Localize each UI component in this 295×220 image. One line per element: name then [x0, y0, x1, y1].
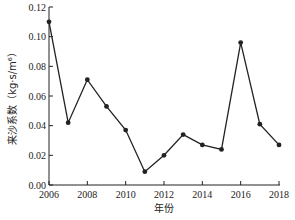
y-tick-label: 0.10	[29, 31, 47, 42]
data-point	[47, 19, 52, 24]
data-point	[257, 122, 262, 127]
data-point	[85, 77, 90, 82]
y-tick-label: 0.08	[29, 61, 47, 72]
y-tick-label: 0.02	[29, 150, 47, 161]
y-tick-label: 0.12	[29, 2, 47, 13]
data-point	[238, 40, 243, 45]
x-tick-label: 2006	[39, 189, 59, 200]
data-point	[181, 132, 186, 137]
data-point	[277, 143, 282, 148]
data-point	[104, 104, 109, 109]
data-point	[123, 128, 128, 133]
data-point	[66, 120, 71, 125]
y-axis-title: 来沙系数（kg·s/m⁶）	[6, 47, 18, 145]
data-point	[142, 169, 147, 174]
x-axis-title: 年份	[154, 202, 174, 214]
data-point-markers	[47, 19, 282, 174]
x-tick-label: 2010	[116, 189, 136, 200]
y-tick-label: 0.04	[29, 120, 47, 131]
data-point	[200, 143, 205, 148]
x-tick-label: 2014	[192, 189, 212, 200]
x-tick-label: 2016	[231, 189, 251, 200]
x-tick-label: 2008	[77, 189, 97, 200]
data-point	[219, 147, 224, 152]
x-tick-label: 2012	[154, 189, 174, 200]
data-point	[162, 153, 167, 158]
x-axis-ticks: 2006200820102012201420162018	[39, 181, 289, 200]
y-tick-label: 0.06	[29, 91, 47, 102]
series-line	[49, 22, 279, 172]
x-tick-label: 2018	[269, 189, 289, 200]
line-chart: 0.000.020.040.060.080.100.12 20062008201…	[0, 0, 295, 220]
